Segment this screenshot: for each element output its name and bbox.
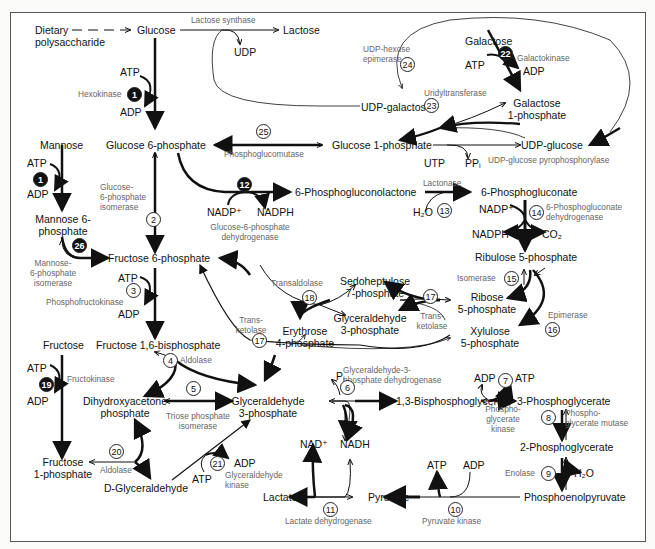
metabolite-pyruvate: Pyruvate: [368, 491, 409, 503]
metabolite-sedoheptulose-7-phosphate: Sedoheptulose 7-phosphate: [335, 275, 415, 299]
enzyme-phosphofructokinase: Phosphofructokinase: [46, 297, 124, 307]
metabolite-h2o-13: H₂O: [413, 206, 433, 218]
metabolite-dihydroxyacetone-phosphate: Dihydroxyacetone phosphate: [80, 395, 170, 419]
step-badge-18: 18: [302, 290, 317, 305]
step-badge-12: 12: [237, 177, 252, 192]
enzyme-phosphoglycerate-kinase: Phospho- glycerate kinase: [481, 404, 525, 434]
metabolite-galactose-1-phosphate: Galactose 1-phosphate: [502, 97, 572, 121]
step-badge-14: 14: [529, 205, 544, 220]
step-badge-16: 16: [545, 322, 560, 337]
metabolite-ribulose-5-phosphate: Ribulose 5-phosphate: [475, 251, 577, 263]
step-badge-23: 23: [424, 98, 439, 113]
enzyme-galactokinase: Galactokinase: [517, 53, 570, 63]
step-badge-15: 15: [504, 271, 519, 286]
metabolite-glyceraldehyde-3-phosphate-ppp: Glyceraldehyde 3-phosphate: [330, 312, 410, 336]
step-badge-13: 13: [437, 203, 452, 218]
step-badge-9: 9: [541, 466, 556, 481]
step-badge-26: 26: [72, 238, 87, 253]
step-badge-25: 25: [256, 124, 271, 139]
step-badge-1b: 1: [33, 172, 48, 187]
enzyme-glyceraldehyde-kinase: Glyceraldehyde kinase: [225, 470, 283, 490]
metabolite-atp-22: ATP: [465, 59, 485, 71]
metabolite-glyceraldehyde-3-phosphate: Glyceraldehyde 3-phosphate: [228, 395, 308, 419]
metabolite-ppi: PPᵢ: [465, 157, 481, 169]
metabolite-udp-glucose: UDP-glucose: [521, 139, 583, 151]
step-badge-2: 2: [146, 212, 161, 227]
step-badge-1a: 1: [127, 87, 142, 102]
metabolite-adp-3: ADP: [118, 308, 140, 320]
enzyme-fructokinase: Fructokinase: [67, 374, 115, 384]
metabolite-mannose: Mannose: [40, 139, 83, 151]
step-badge-10: 10: [448, 502, 463, 517]
metabolite-lactate: Lactate: [263, 491, 297, 503]
step-badge-8: 8: [541, 410, 556, 425]
metabolite-atp-21: ATP: [192, 473, 212, 485]
enzyme-enolase: Enolase: [505, 468, 535, 478]
metabolite-nadph-12: NADPH: [257, 206, 294, 218]
metabolite-nadp-14: NADP⁺: [479, 203, 514, 215]
enzyme-transketolase-b: Trans- ketolase: [414, 311, 450, 331]
metabolite-glucose: Glucose: [137, 24, 176, 36]
metabolite-adp-22: ADP: [523, 65, 545, 77]
step-badge-17a: 17: [252, 333, 267, 348]
metabolite-glucose-1-phosphate: Glucose 1-phosphate: [332, 139, 432, 151]
metabolite-adp-21: ADP: [234, 457, 256, 469]
metabolite-6-phosphogluconate: 6-Phosphogluconate: [481, 186, 577, 198]
step-badge-19: 19: [39, 377, 54, 392]
step-badge-7: 7: [498, 373, 513, 388]
enzyme-lactate-dehydrogenase: Lactate dehydrogenase: [285, 516, 372, 526]
step-badge-20: 20: [109, 444, 124, 459]
metabolite-xylulose-5-phosphate: Xylulose 5-phosphate: [455, 325, 525, 349]
metabolite-d-glyceraldehyde: D-Glyceraldehyde: [104, 482, 188, 494]
metabolite-atp-19: ATP: [27, 362, 47, 374]
metabolite-fructose-1-6-bisphosphate: Fructose 1,6-bisphosphate: [96, 339, 220, 351]
metabolite-fructose-1-phosphate: Fructose 1-phosphate: [33, 456, 93, 480]
metabolite-atp-mannose: ATP: [27, 157, 47, 169]
step-badge-24: 24: [400, 57, 415, 72]
metabolite-adp-mannose: ADP: [27, 188, 49, 200]
enzyme-triose-phosphate-isomerase: Triose phosphate isomerase: [162, 411, 234, 431]
enzyme-phosphoglucomutase: Phosphoglucomutase: [224, 149, 304, 159]
metabolite-fructose-6-phosphate: Fructose 6-phosphate: [108, 252, 210, 264]
metabolite-atp-1: ATP: [120, 66, 140, 78]
enzyme-phosphoglycerate-mutase: Phospho- glycerate mutase: [565, 408, 628, 428]
metabolite-2-phosphoglycerate: 2-Phosphoglycerate: [520, 441, 613, 453]
enzyme-glucose-6-phosphate-dehydrogenase: Glucose-6-phosphate dehydrogenase: [200, 222, 300, 242]
metabolite-udp-galactose: UDP-galactose: [361, 101, 432, 113]
enzyme-hexokinase: Hexokinase: [78, 89, 121, 99]
enzyme-lactose-synthase: Lactose synthase: [191, 15, 256, 25]
metabolite-nadp-12: NADP⁺: [207, 206, 242, 218]
metabolite-atp-10: ATP: [427, 459, 447, 471]
enzyme-uridyltransferase: Uridyltransferase: [424, 88, 487, 98]
enzyme-glyceraldehyde-3-phosphate-dehydrogenase: Glyceraldehyde-3- phosphate dehydrogenas…: [343, 365, 441, 385]
enzyme-isomerase: Isomerase: [457, 273, 496, 283]
metabolite-fructose: Fructose: [43, 339, 84, 351]
pathway-arrows: [0, 0, 655, 549]
metabolite-nadh: NADH: [340, 438, 370, 450]
metabolite-utp: UTP: [424, 157, 445, 169]
metabolite-phosphoenolpyruvate: Phosphoenolpyruvate: [524, 491, 626, 503]
metabolite-adp-1: ADP: [120, 106, 142, 118]
enzyme-lactonase: Lactonase: [423, 178, 461, 188]
enzyme-aldolase-4: Aldolase: [180, 355, 212, 365]
step-badge-17b: 17: [423, 289, 438, 304]
metabolite-glucose-6-phosphate: Glucose 6-phosphate: [106, 139, 206, 151]
metabolite-co2: CO₂: [542, 228, 562, 240]
metabolite-udp: UDP: [234, 46, 256, 58]
metabolite-adp-19: ADP: [27, 395, 49, 407]
metabolite-h2o-9: H₂O: [574, 467, 594, 479]
metabolite-erythrose-4-phosphate: Erythrose 4-phosphate: [270, 325, 340, 349]
metabolite-3-phosphoglycerate: 3-Phosphoglycerate: [517, 395, 610, 407]
metabolite-dietary-polysaccharide: Dietary polysaccharide: [35, 24, 105, 48]
enzyme-6-phosphogluconate-dehydrogenase: 6-Phosphogluconate dehydrogenase: [546, 202, 622, 222]
metabolite-mannose-6-phosphate: Mannose 6- phosphate: [28, 213, 98, 237]
step-badge-5: 5: [186, 381, 201, 396]
step-badge-21: 21: [210, 456, 225, 471]
metabolite-atp-7: ATP: [515, 372, 535, 384]
metabolite-adp-7: ADP: [474, 372, 496, 384]
enzyme-aldolase-20: Aldolase: [100, 465, 132, 475]
step-badge-11: 11: [323, 502, 338, 517]
step-badge-6: 6: [340, 380, 355, 395]
enzyme-transaldolase: Transaldolase: [271, 278, 323, 288]
step-badge-4: 4: [163, 353, 178, 368]
